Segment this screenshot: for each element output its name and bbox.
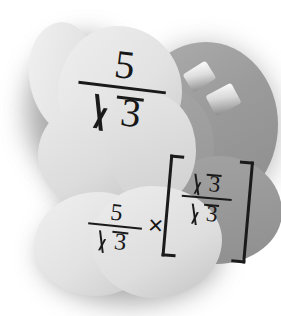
top-fraction-5-over-sqrt3: 5 3	[73, 40, 171, 137]
radical-icon: 3	[99, 228, 127, 255]
bracketed-fraction-group: 3 3	[162, 155, 254, 258]
bottom-left-fraction-5-over-sqrt3: 5 3	[85, 197, 144, 255]
multiplication-sign: ×	[147, 212, 164, 239]
bracketed-fraction-sqrt3-over-sqrt3: 3 3	[179, 170, 233, 227]
bracketed-denominator: 3	[179, 200, 231, 227]
radical-icon: 3	[95, 89, 143, 134]
radical-icon: 3	[192, 201, 219, 226]
bracketed-numerator: 3	[182, 170, 234, 197]
illustration-canvas: 5 3 5 3 ×	[0, 0, 281, 316]
radical-icon: 3	[195, 171, 222, 196]
